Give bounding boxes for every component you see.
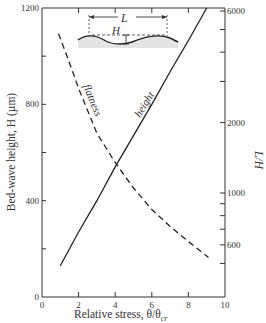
x-tick-label: 0 (40, 300, 45, 310)
y-axis-tick-labels: 04008001200 (21, 3, 40, 302)
x-axis-title-sub: cr (161, 314, 169, 323)
y2-axis-ticks (220, 11, 225, 263)
plot-frame (42, 8, 225, 297)
inset-L-label: L (120, 11, 128, 25)
y-axis-ticks (42, 56, 46, 249)
y-tick-label: 800 (26, 99, 40, 109)
x-axis-title-main: Relative stress, θ/θ (74, 308, 161, 321)
x-axis-ticks (79, 8, 189, 297)
y-tick-label: 400 (26, 196, 40, 206)
y2-tick-label: 600 (227, 240, 241, 250)
inset-bed-wave-diagram: L H (78, 11, 178, 48)
y2-tick-label: 2000 (227, 118, 246, 128)
x-tick-label: 10 (221, 300, 231, 310)
flatness-dashed-line (59, 34, 209, 258)
y-axis-title: Bed-wave height, H (µm) (5, 93, 18, 212)
inset-H-label: H (111, 24, 121, 36)
height-series-label: height (132, 89, 157, 119)
bed-wave-chart: 0246810 04008001200 600100020006000 heig… (0, 0, 266, 323)
x-axis-title: Relative stress, θ/θcr (74, 308, 168, 323)
y-tick-label: 0 (35, 292, 40, 302)
y2-axis-tick-labels: 600100020006000 (227, 6, 246, 250)
y2-axis-title: L/H (253, 150, 265, 170)
x-tick-label: 8 (186, 300, 191, 310)
flatness-series-label: flatness (81, 82, 105, 118)
y2-tick-label: 1000 (227, 188, 246, 198)
y2-tick-label: 6000 (227, 6, 246, 16)
y-tick-label: 1200 (21, 3, 40, 13)
